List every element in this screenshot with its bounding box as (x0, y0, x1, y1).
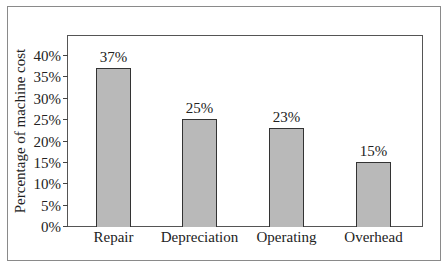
y-tick-label: 20% (34, 135, 62, 150)
y-tick-label: 5% (41, 199, 61, 214)
x-category-label: Depreciation (150, 229, 250, 246)
x-category-label: Operating (237, 229, 337, 246)
y-tick-label: 40% (34, 49, 62, 64)
bar-value-label: 37% (84, 49, 144, 66)
bar-depreciation (182, 119, 217, 227)
bar-repair (96, 68, 131, 227)
bar-value-label: 25% (170, 100, 230, 117)
y-tick (63, 162, 68, 163)
y-tick (63, 55, 68, 56)
y-tick-label: 10% (34, 177, 62, 192)
bar-value-label: 15% (344, 143, 404, 160)
bar-value-label: 23% (257, 109, 317, 126)
y-tick (63, 119, 68, 120)
y-tick (63, 183, 68, 184)
y-tick-label: 0% (41, 220, 61, 235)
x-category-label: Overhead (324, 229, 424, 246)
x-category-label: Repair (64, 229, 164, 246)
y-tick (63, 141, 68, 142)
y-axis-label: Percentage of machine cost (12, 49, 29, 214)
y-tick-label: 30% (34, 92, 62, 107)
y-tick-label: 35% (34, 70, 62, 85)
bar-operating (269, 128, 304, 227)
y-tick-label: 25% (34, 113, 62, 128)
y-tick (63, 226, 68, 227)
y-tick (63, 76, 68, 77)
bar-overhead (356, 162, 391, 227)
y-tick-label: 15% (34, 156, 62, 171)
y-tick (63, 98, 68, 99)
y-tick (63, 205, 68, 206)
